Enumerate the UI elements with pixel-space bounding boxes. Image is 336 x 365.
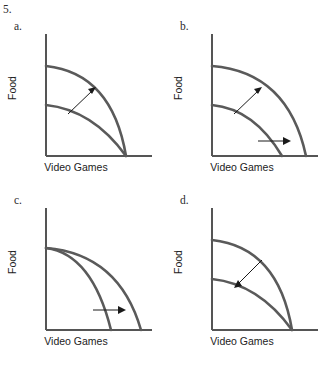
panel-a-y-axis-label: Food (6, 63, 18, 113)
panel-d-axes (212, 208, 318, 330)
panel-d: d. Food Video Games (166, 194, 332, 365)
panel-d-x-axis-label: Video Games (166, 335, 318, 347)
arrow-shaft (238, 260, 262, 284)
panel-a: a. Food Video Games (0, 20, 166, 193)
panel-d-y-axis-label: Food (172, 237, 184, 287)
panel-b-outward-arrow-food (234, 87, 262, 114)
clipped-header-text: · · · (0, 0, 336, 1)
panel-c-y-axis-label: Food (6, 237, 18, 287)
panel-b: b. Food Video Games (166, 20, 332, 193)
arrow-head (283, 137, 291, 145)
panel-c-outward-arrow-games (93, 306, 126, 314)
panel-c-inner-ppf (46, 248, 111, 330)
panel-b-y-axis-label: Food (172, 63, 184, 113)
panel-b-inner-ppf (212, 105, 282, 156)
panel-b-outer-ppf (212, 66, 306, 156)
panel-c-x-axis-label: Video Games (0, 335, 152, 347)
panel-c-axes (46, 208, 152, 330)
panel-b-x-axis-label: Video Games (166, 161, 318, 173)
arrow-head (88, 87, 96, 94)
panel-a-outward-arrow (68, 87, 96, 114)
panel-d-inward-arrow (234, 260, 262, 288)
arrow-shaft (68, 90, 93, 114)
arrow-head (118, 306, 126, 314)
panel-c-outer-ppf (46, 248, 141, 330)
arrow-shaft (234, 90, 259, 114)
panel-a-axes (46, 34, 152, 156)
figure-page: · · · 5. a. Food Video Games b. (0, 0, 336, 365)
panel-a-x-axis-label: Video Games (0, 161, 152, 173)
panel-c: c. Food Video Games (0, 194, 166, 365)
arrow-head (254, 87, 262, 94)
question-number: 5. (3, 3, 12, 15)
